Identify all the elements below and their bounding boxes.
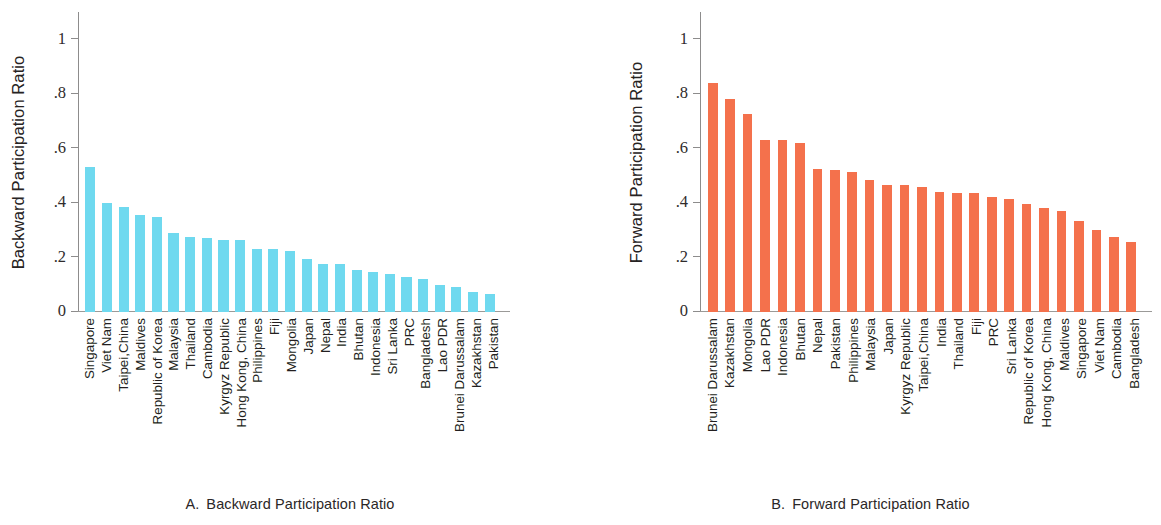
bar-slot [215, 12, 232, 312]
x-label-slot: Sri Lanka [1003, 316, 1021, 491]
x-tick-label: Hong Kong, China [1040, 318, 1053, 427]
x-tick-label: Pakistan [829, 318, 842, 369]
x-tick-label: Bhutan [794, 318, 807, 360]
panel-a-backward-participation: Backward Participation Ratio 0.2.4.6.81 … [0, 0, 580, 525]
x-tick-label: Sri Lanka [386, 318, 399, 375]
x-tick-label: Indonesia [369, 318, 382, 376]
y-tick-label: 1 [58, 29, 66, 49]
x-label-slot: Thailand [183, 316, 200, 491]
x-label-slot: Brunei Darussalam [704, 316, 722, 491]
bar [202, 238, 212, 312]
x-axis-labels-backward: SingaporeViet NamTaipei,ChinaMaldivesRep… [82, 316, 502, 491]
bar [268, 249, 278, 312]
bar-slot [431, 12, 448, 312]
bar [152, 217, 162, 312]
bar-slot [398, 12, 415, 312]
bar-slot [298, 12, 315, 312]
x-tick-label: Pakistan [487, 318, 500, 369]
bar [285, 251, 295, 312]
x-tick-label: Indonesia [776, 318, 789, 376]
x-tick-label: Japan [302, 318, 315, 354]
x-tick-label: Lao PDR [436, 318, 449, 372]
x-label-slot: Taipei,China [915, 316, 933, 491]
bar [708, 83, 718, 312]
bar [418, 279, 428, 312]
bar-slot [931, 12, 948, 312]
bar [743, 114, 753, 312]
bar [368, 272, 378, 312]
y-tick-label: .4 [54, 192, 66, 212]
bar-slot [861, 12, 878, 312]
x-tick-label: Kyrgyz Republic [900, 318, 913, 415]
bar [252, 249, 262, 312]
bar [451, 287, 461, 312]
x-tick-label: PRC [988, 318, 1001, 346]
bar-slot [774, 12, 791, 312]
x-tick-label: Singapore [1076, 318, 1089, 379]
bar-slot [896, 12, 913, 312]
bar-slot [332, 12, 349, 312]
bar [468, 292, 478, 312]
bar-slot [1070, 12, 1087, 312]
bar-slot [791, 12, 808, 312]
bar-slot [448, 12, 465, 312]
x-tick-label: India [336, 318, 349, 347]
bar-slot [1018, 12, 1035, 312]
x-label-slot: Kazakhstan [468, 316, 485, 491]
x-tick-label: Cambodia [201, 318, 214, 379]
x-label-slot: Bangladesh [418, 316, 435, 491]
bar-slot [315, 12, 332, 312]
x-tick-label: Sri Lanka [1005, 318, 1018, 375]
x-label-slot: Japan [300, 316, 317, 491]
x-label-slot: Singapore [82, 316, 99, 491]
panel-b-caption: B.Forward Participation Ratio [580, 496, 1161, 512]
bar [935, 192, 945, 312]
x-tick-label: Taipei,China [117, 318, 130, 392]
x-label-slot: Nepal [810, 316, 828, 491]
bar [385, 274, 395, 312]
x-tick-label: Maldives [1058, 318, 1071, 371]
y-axis-title-forward: Forward Participation Ratio [624, 12, 650, 312]
bar-slot [739, 12, 756, 312]
x-label-slot: Hong Kong, China [1038, 316, 1056, 491]
bar-slot [149, 12, 166, 312]
bar [795, 143, 805, 312]
y-tick: .8 [71, 93, 78, 94]
x-tick-label: Philippines [847, 318, 860, 383]
bar-slot [382, 12, 399, 312]
bar [830, 170, 840, 312]
y-tick: 1 [693, 38, 700, 39]
y-tick: .6 [693, 147, 700, 148]
bar [135, 215, 145, 312]
two-panel-bar-figure: Backward Participation Ratio 0.2.4.6.81 … [0, 0, 1161, 525]
bar [1092, 230, 1102, 312]
bar [969, 193, 979, 312]
y-tick-label: .8 [676, 83, 688, 103]
bar [900, 185, 910, 312]
bar [318, 264, 328, 312]
x-label-slot: Brunei Darussalam [452, 316, 469, 491]
x-label-slot: Malaysia [166, 316, 183, 491]
bar-slot [1088, 12, 1105, 312]
plot-area-forward: 0.2.4.6.81 [700, 12, 1140, 312]
x-label-slot: India [933, 316, 951, 491]
x-label-slot: Lao PDR [435, 316, 452, 491]
y-tick: .4 [71, 202, 78, 203]
x-label-slot: Pakistan [485, 316, 502, 491]
x-tick-label: Cambodia [1111, 318, 1124, 379]
bar [85, 167, 95, 312]
x-label-slot: Japan [880, 316, 898, 491]
bar-slot [82, 12, 99, 312]
y-tick: .4 [693, 202, 700, 203]
bar-slot [704, 12, 721, 312]
x-label-slot: PRC [986, 316, 1004, 491]
x-label-slot: Maldives [1056, 316, 1074, 491]
x-tick-label: Kazakhstan [724, 318, 737, 388]
bar [185, 237, 195, 312]
x-label-slot: Indonesia [368, 316, 385, 491]
bar-slot [1000, 12, 1017, 312]
x-tick-label: Nepal [812, 318, 825, 353]
bar-slot [415, 12, 432, 312]
x-tick-label: Lao PDR [759, 318, 772, 372]
x-tick-label: Mongolia [285, 318, 298, 372]
